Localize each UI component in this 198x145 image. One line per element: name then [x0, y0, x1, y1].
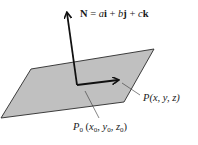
equals-sign: =: [88, 8, 99, 19]
unit-k: k: [143, 8, 149, 19]
normal-vector-label: N = ai + bj + ck: [80, 9, 149, 20]
paren-close: ): [123, 121, 127, 132]
point-p-coords: (x, y, z): [149, 92, 179, 103]
point-p-label: P(x, y, z): [143, 93, 180, 104]
plus-sign: +: [127, 8, 138, 19]
normal-symbol: N: [80, 8, 88, 19]
point-p0-label: P0 (x0, y0, z0): [73, 122, 127, 134]
plus-sign: +: [107, 8, 118, 19]
